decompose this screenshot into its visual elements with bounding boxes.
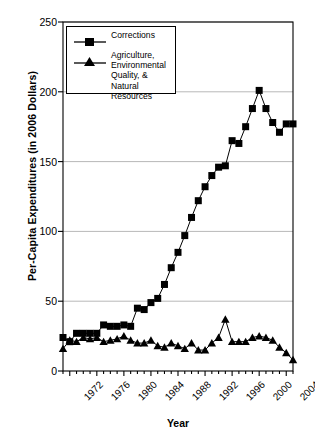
data-point-marker [147,336,155,343]
data-point-marker [242,123,249,130]
data-point-marker [269,336,277,343]
data-point-marker [235,140,242,147]
legend-marker-corrections [73,33,107,43]
data-point-marker [256,87,263,94]
data-point-marker [208,172,215,179]
data-point-marker [214,333,222,340]
data-point-marker [229,137,236,144]
data-point-marker [215,164,222,171]
legend-label-agriculture: Agriculture, Environmental Quality, & Na… [111,50,177,101]
data-point-marker [290,120,297,127]
data-point-marker [187,339,195,346]
data-point-marker [147,299,154,306]
data-point-marker [195,197,202,204]
data-point-marker [175,249,182,256]
legend-marker-agriculture [73,53,107,63]
data-point-marker [221,315,229,322]
data-point-marker [113,335,121,342]
chart-figure: Per-Capita Expenditures (in 2006 Dollars… [0,0,315,438]
data-point-marker [134,305,141,312]
data-point-marker [269,119,276,126]
data-point-marker [202,183,209,190]
data-point-marker [181,232,188,239]
data-point-marker [283,120,290,127]
legend-label-corrections: Corrections [111,30,177,40]
data-point-marker [174,342,182,349]
data-point-marker [107,323,114,330]
data-point-marker [167,339,175,346]
data-point-marker [73,330,80,337]
data-point-marker [262,105,269,112]
data-point-marker [141,306,148,313]
data-point-marker [255,332,263,339]
chart-legend: Corrections Agriculture, Environmental Q… [66,26,176,94]
data-point-marker [222,162,229,169]
data-point-marker [276,129,283,136]
data-point-marker [126,336,134,343]
data-point-marker [154,295,161,302]
data-point-marker [60,334,67,341]
data-point-marker [161,281,168,288]
data-point-marker [114,323,121,330]
data-point-marker [120,332,128,339]
data-point-marker [249,105,256,112]
data-point-marker [168,264,175,271]
data-point-marker [127,323,134,330]
series-line-corrections [63,90,293,341]
data-point-marker [188,214,195,221]
data-point-marker [100,321,107,328]
data-point-marker [120,321,127,328]
